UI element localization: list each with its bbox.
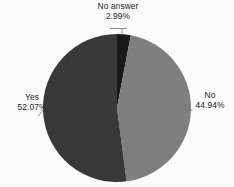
pie-label-no-answer: No answer 2.99% xyxy=(76,2,160,22)
pie-chart-figure: No answer 2.99% Yes 52.07% No 44.94% xyxy=(0,0,234,187)
pie-label-no-answer-value: 2.99% xyxy=(76,12,160,22)
pie-label-no-value: 44.94% xyxy=(186,101,234,111)
pie-slice-no xyxy=(117,35,191,181)
pie-label-no: No 44.94% xyxy=(186,91,234,111)
pie-slices xyxy=(43,34,191,182)
pie-label-yes: Yes 52.07% xyxy=(4,93,60,113)
pie-label-yes-value: 52.07% xyxy=(4,103,60,113)
